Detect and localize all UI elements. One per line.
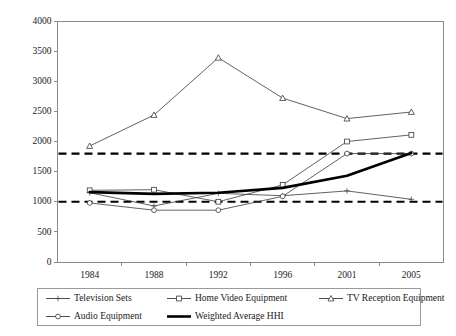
axes xyxy=(58,21,445,263)
data-point-marker-triangle xyxy=(87,143,93,148)
y-tick-label: 3500 xyxy=(33,46,52,56)
x-tick-label: 1984 xyxy=(80,270,99,280)
data-point-marker-square xyxy=(345,139,350,144)
x-tick-label: 2005 xyxy=(402,270,421,280)
y-tick-label: 2000 xyxy=(33,136,52,146)
legend-swatch xyxy=(45,293,71,304)
legend-item-tv-reception-equipment[interactable]: TV Reception Equipment xyxy=(318,293,418,304)
legend-swatch xyxy=(166,311,192,322)
series-path xyxy=(90,58,412,146)
series-tv-reception-equipment xyxy=(87,55,415,149)
legend-row: Television SetsHome Video EquipmentTV Re… xyxy=(38,290,420,307)
y-tick-label: 500 xyxy=(37,227,52,237)
legend-marker-square-icon xyxy=(166,293,192,304)
legend-marker-none-icon xyxy=(166,311,192,322)
series-path xyxy=(90,135,412,202)
data-point-marker-circle xyxy=(280,194,285,199)
legend-marker-plus-cross-icon xyxy=(45,293,71,304)
data-point-marker-square xyxy=(216,199,221,204)
y-tick-label: 1000 xyxy=(33,196,52,206)
chart-container: 05001000150020002500300035004000 1984198… xyxy=(0,0,456,336)
legend-label: Home Video Equipment xyxy=(195,293,287,304)
data-point-marker-square xyxy=(177,296,182,301)
legend-label: Audio Equipment xyxy=(74,311,142,322)
legend-item-weighted-average-hhi[interactable]: Weighted Average HHI xyxy=(166,311,318,322)
x-tick-label: 1992 xyxy=(209,270,228,280)
y-tick-label: 1500 xyxy=(33,166,52,176)
legend-label: Television Sets xyxy=(74,293,132,304)
x-axis-ticks: 198419881992199620012005 xyxy=(80,262,421,280)
data-point-marker-triangle xyxy=(408,109,414,114)
data-point-marker-plus-cross xyxy=(55,296,61,302)
data-point-marker-square xyxy=(409,132,414,137)
data-point-marker-circle xyxy=(87,201,92,206)
data-point-marker-triangle xyxy=(215,55,221,60)
legend-marker-triangle-icon xyxy=(318,293,344,304)
y-tick-label: 2500 xyxy=(33,106,52,116)
y-tick-label: 0 xyxy=(47,257,52,267)
series-weighted-average-hhi xyxy=(90,153,412,194)
legend-label: TV Reception Equipment xyxy=(347,293,444,304)
x-tick-label: 2001 xyxy=(338,270,357,280)
series-layer xyxy=(87,55,415,213)
legend-swatch xyxy=(166,293,192,304)
series-audio-equipment xyxy=(87,151,413,212)
legend-item-audio-equipment[interactable]: Audio Equipment xyxy=(38,311,166,322)
y-tick-label: 3000 xyxy=(33,76,52,86)
series-path xyxy=(90,153,412,194)
legend-label: Weighted Average HHI xyxy=(195,311,284,322)
data-point-marker-square xyxy=(152,187,157,192)
data-point-marker-circle xyxy=(56,314,61,319)
legend-row: Audio EquipmentWeighted Average HHI xyxy=(38,308,420,325)
x-tick-label: 1988 xyxy=(145,270,164,280)
data-point-marker-plus-cross xyxy=(344,188,350,194)
data-point-marker-circle xyxy=(152,208,157,213)
legend-item-home-video-equipment[interactable]: Home Video Equipment xyxy=(166,293,318,304)
y-axis-ticks: 05001000150020002500300035004000 xyxy=(33,16,58,267)
line-chart-plot: 05001000150020002500300035004000 1984198… xyxy=(0,0,456,290)
data-point-marker-circle xyxy=(216,208,221,213)
data-point-marker-circle xyxy=(345,151,350,156)
legend-item-television-sets[interactable]: Television Sets xyxy=(38,293,166,304)
legend-swatch xyxy=(45,311,71,322)
x-tick-label: 1996 xyxy=(273,270,292,280)
y-tick-label: 4000 xyxy=(33,16,52,26)
legend-swatch xyxy=(318,293,344,304)
legend-marker-circle-icon xyxy=(45,311,71,322)
data-point-marker-triangle xyxy=(280,95,286,100)
chart-legend: Television SetsHome Video EquipmentTV Re… xyxy=(37,288,421,326)
